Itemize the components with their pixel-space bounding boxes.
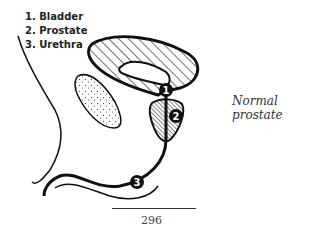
pubic-bone xyxy=(75,75,121,128)
legend: 1. Bladder 2. Prostate 3. Urethra xyxy=(25,10,87,52)
body-outline xyxy=(18,36,61,183)
legend-item-urethra: 3. Urethra xyxy=(25,38,87,52)
legend-item-prostate: 2. Prostate xyxy=(25,24,87,38)
svg-text:2: 2 xyxy=(173,111,180,122)
marker-3: 3 xyxy=(130,175,144,189)
marker-1: 1 xyxy=(159,83,173,97)
page-number: 296 xyxy=(141,214,162,227)
legend-item-bladder: 1. Bladder xyxy=(25,10,87,24)
marker-2: 2 xyxy=(169,109,183,123)
svg-text:1: 1 xyxy=(163,85,170,96)
page-divider xyxy=(112,208,196,209)
figure-caption: Normal prostate xyxy=(232,94,330,122)
svg-text:3: 3 xyxy=(134,177,141,188)
